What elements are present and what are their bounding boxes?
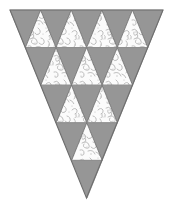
- subdivided-triangle-figure: Inverted subdivided triangle A large dow…: [0, 0, 171, 207]
- gray-triangle: [72, 160, 103, 198]
- figure-container: Inverted subdivided triangle A large dow…: [0, 0, 171, 207]
